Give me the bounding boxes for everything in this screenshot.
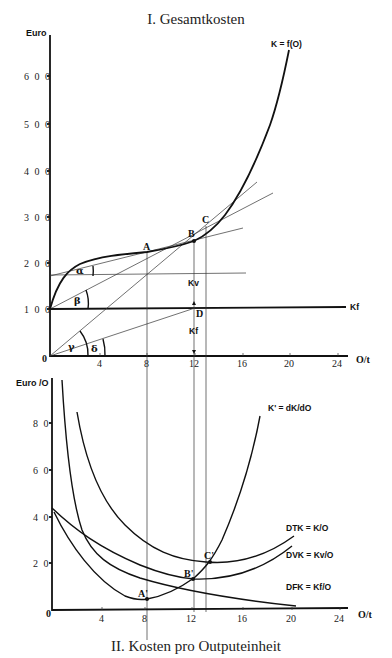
x-tick-12-b: 12 <box>186 613 196 624</box>
point-C-prime-label: C' <box>204 550 214 561</box>
kv-label: Kv <box>188 278 199 288</box>
x-tick-24-b: 24 <box>334 613 344 624</box>
x-tick-16: 16 <box>237 358 247 369</box>
y-tick-400: 4 0 0 <box>24 166 52 177</box>
point-D-label: D <box>196 308 203 319</box>
angle-gamma-arc <box>80 331 88 356</box>
arrow-down-axis <box>192 350 196 354</box>
angle-beta-arc <box>86 290 88 309</box>
bottom-chart-title: II. Kosten pro Outputeinheit <box>111 638 282 654</box>
top-x-axis-label: O/t <box>356 354 371 365</box>
y-tick-200: 2 0 0 <box>24 258 52 269</box>
total-cost-curve <box>50 50 289 309</box>
point-A-prime-label: A' <box>138 588 148 599</box>
y-tick-300: 3 0 0 <box>24 212 52 223</box>
dfk-curve <box>62 380 296 606</box>
y-tick-60: 6 0 <box>33 465 50 476</box>
x-tick-8-b: 8 <box>142 613 147 624</box>
point-A-label: A <box>143 241 151 252</box>
dvk-label: DVK = Kv/O <box>286 550 334 560</box>
x-tick-20-b: 20 <box>286 613 296 624</box>
y-tick-20: 2 0 <box>33 558 50 569</box>
bottom-x-axis-label: O/t <box>358 609 373 620</box>
y-tick-100: 1 0 0 <box>24 304 52 315</box>
bottom-y-axis-label: Euro /O <box>16 378 49 388</box>
delta-label: δ <box>91 343 98 354</box>
total-cost-label: K = f(O) <box>271 39 302 49</box>
top-y-axis-label: Euro <box>26 28 47 38</box>
x-tick-4: 4 <box>97 358 102 369</box>
x-tick-24: 24 <box>332 358 342 369</box>
beta-label: β <box>74 295 81 306</box>
y-tick-40: 4 0 <box>33 512 50 523</box>
dtk-curve <box>77 412 294 563</box>
arrow-up-D <box>192 301 196 305</box>
x-tick-0-b: 0 <box>46 608 51 619</box>
x-tick-8: 8 <box>144 358 149 369</box>
kf-bracket-label: Kf <box>189 326 198 336</box>
top-chart-title: I. Gesamtkosten <box>147 11 245 27</box>
y-tick-500: 5 0 0 <box>24 119 52 130</box>
alpha-label: α <box>76 265 84 276</box>
bottom-y-ticks: 8 0 6 0 4 0 2 0 <box>33 418 52 569</box>
cost-curves-figure: I. Gesamtkosten Euro 6 0 0 5 0 0 4 0 0 3… <box>0 0 392 658</box>
x-tick-20: 20 <box>284 358 294 369</box>
top-y-ticks: 6 0 0 5 0 0 4 0 0 3 0 0 2 0 0 1 0 0 <box>24 71 52 315</box>
dvk-curve <box>52 508 292 579</box>
point-C-label: C <box>202 214 209 225</box>
bottom-x-axis <box>52 608 348 610</box>
x-tick-0: 0 <box>42 353 47 364</box>
gamma-label: γ <box>68 341 75 352</box>
dtk-label: DTK = K/O <box>286 523 329 533</box>
kf-label: Kf <box>350 302 359 312</box>
marginal-cost-label: K' = dK/dO <box>268 403 312 413</box>
point-B-label: B <box>188 228 195 239</box>
y-tick-80: 8 0 <box>33 418 50 429</box>
y-tick-600: 6 0 0 <box>24 71 52 82</box>
point-B-prime-label: B' <box>184 568 194 579</box>
x-tick-16-b: 16 <box>237 613 247 624</box>
dfk-label: DFK = Kf/O <box>286 582 331 592</box>
angle-delta-arc <box>103 339 105 356</box>
point-B-marker <box>192 239 196 243</box>
marginal-cost-curve <box>54 416 260 600</box>
tangent-beta-line <box>50 193 273 309</box>
x-tick-4-b: 4 <box>99 613 104 624</box>
